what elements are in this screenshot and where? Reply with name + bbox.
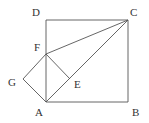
point-label-F: F bbox=[34, 41, 40, 53]
point-label-G: G bbox=[8, 76, 16, 88]
point-label-B: B bbox=[132, 106, 139, 118]
point-label-E: E bbox=[74, 78, 81, 90]
segment-GA bbox=[23, 79, 46, 102]
segment-FC bbox=[46, 20, 128, 54]
point-label-D: D bbox=[32, 6, 40, 18]
segment-FE bbox=[46, 54, 70, 79]
segment-AC bbox=[46, 20, 128, 102]
point-label-C: C bbox=[130, 6, 137, 18]
point-label-A: A bbox=[35, 106, 43, 118]
vertex-labels: ABCDEFG bbox=[8, 6, 139, 118]
geometry-diagram: ABCDEFG bbox=[0, 0, 149, 123]
segment-FG bbox=[23, 54, 46, 79]
